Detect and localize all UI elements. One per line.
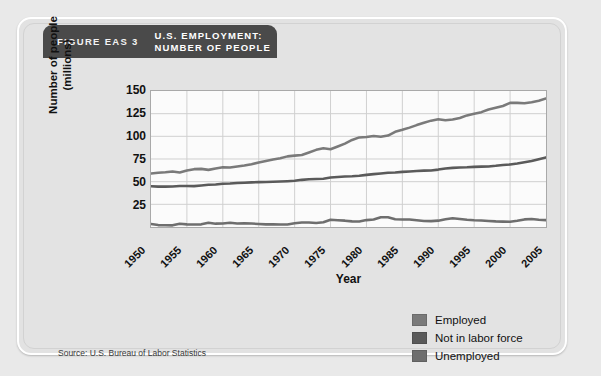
y-tick-label: 150 [126,83,146,97]
x-axis-title: Year [150,272,547,286]
y-tick-label: 25 [133,198,146,212]
x-tick-label: 1990 [410,244,436,270]
data-series [151,99,546,226]
legend-item[interactable]: Employed [412,312,523,328]
figure-page: FIGURE EAS 3 U.S. EMPLOYMENT: NUMBER OF … [0,0,601,376]
x-tick-label: 1985 [374,244,400,270]
figure-title: U.S. EMPLOYMENT: NUMBER OF PEOPLE [155,30,271,53]
legend-swatch [412,332,427,344]
y-tick-label: 50 [133,175,146,189]
x-tick-label: 2000 [483,244,509,270]
figure-card-inner: FIGURE EAS 3 U.S. EMPLOYMENT: NUMBER OF … [23,23,561,349]
y-axis-title: Number of people (millions) [46,0,74,130]
legend-swatch [412,350,427,362]
x-tick-label: 1960 [194,244,220,270]
x-tick-label: 1955 [158,244,184,270]
series-line [151,157,546,186]
figure-header-tab: FIGURE EAS 3 U.S. EMPLOYMENT: NUMBER OF … [43,25,277,58]
chart-area: Number of people (millions) 255075100125… [24,58,560,348]
x-tick-label: 1980 [338,244,364,270]
x-tick-label: 1970 [266,244,292,270]
series-line [151,217,546,225]
figure-card: FIGURE EAS 3 U.S. EMPLOYMENT: NUMBER OF … [17,17,567,355]
x-tick-label: 1995 [447,244,473,270]
x-tick-label: 1965 [230,244,256,270]
legend-label: Employed [435,314,486,326]
y-tick-label: 125 [126,106,146,120]
legend-item[interactable]: Not in labor force [412,330,523,346]
x-axis-ticks: 1950195519601965197019751980198519901995… [150,230,547,276]
source-note: Source: U.S. Bureau of Labor Statistics [58,348,206,358]
legend-item[interactable]: Unemployed [412,348,523,364]
legend-label: Not in labor force [435,332,523,344]
plot-area [150,90,547,228]
x-tick-label: 1950 [122,244,148,270]
y-tick-label: 100 [126,129,146,143]
y-tick-label: 75 [133,152,146,166]
chart-svg [151,91,546,227]
legend-swatch [412,314,427,326]
chart-legend: EmployedNot in labor forceUnemployed [412,312,523,366]
legend-label: Unemployed [435,350,500,362]
x-tick-label: 1975 [302,244,328,270]
x-tick-label: 2005 [519,244,545,270]
y-axis-ticks: 255075100125150 [102,90,146,228]
